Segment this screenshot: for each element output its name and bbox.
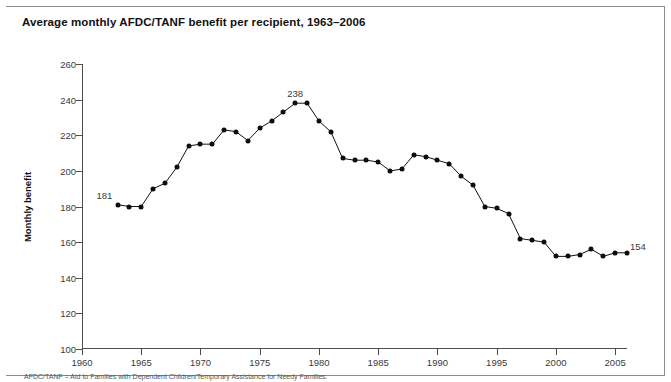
data-point xyxy=(115,202,120,207)
x-tick-label: 1960 xyxy=(62,357,102,368)
data-point xyxy=(423,154,428,159)
data-point xyxy=(482,204,487,209)
y-tick-label: 160 xyxy=(46,237,76,248)
y-tick xyxy=(76,171,82,172)
data-point xyxy=(234,129,239,134)
y-tick-label: 200 xyxy=(46,165,76,176)
x-tick-label: 1990 xyxy=(417,357,457,368)
data-point xyxy=(553,254,558,259)
data-point xyxy=(127,204,132,209)
data-point xyxy=(470,183,475,188)
figure-title: Average monthly AFDC/TANF benefit per re… xyxy=(22,16,365,28)
figure-panel: Average monthly AFDC/TANF benefit per re… xyxy=(0,0,671,382)
x-tick-label: 1995 xyxy=(477,357,517,368)
y-tick-label: 240 xyxy=(46,94,76,105)
data-point xyxy=(589,247,594,252)
y-tick xyxy=(76,207,82,208)
data-point xyxy=(186,143,191,148)
data-point xyxy=(210,142,215,147)
data-point xyxy=(198,142,203,147)
data-point xyxy=(352,158,357,163)
data-point xyxy=(305,101,310,106)
data-point xyxy=(245,138,250,143)
y-tick xyxy=(76,313,82,314)
data-point xyxy=(530,238,535,243)
y-tick-label: 120 xyxy=(46,308,76,319)
data-point xyxy=(447,161,452,166)
data-point xyxy=(340,156,345,161)
y-tick xyxy=(76,278,82,279)
figure-footnote: AFDC/TANF = Aid to Families with Depende… xyxy=(24,373,328,382)
data-point xyxy=(281,110,286,115)
data-point xyxy=(162,181,167,186)
data-point xyxy=(257,126,262,131)
data-point xyxy=(613,250,618,255)
data-point xyxy=(506,211,511,216)
data-point xyxy=(435,158,440,163)
data-point xyxy=(222,127,227,132)
x-tick-label: 1975 xyxy=(240,357,280,368)
data-label: 238 xyxy=(287,88,303,99)
data-point xyxy=(542,240,547,245)
data-point xyxy=(174,165,179,170)
y-tick-label: 260 xyxy=(46,59,76,70)
plot-area: 181238154 xyxy=(82,64,627,349)
data-point xyxy=(601,254,606,259)
data-point xyxy=(625,250,630,255)
x-tick-label: 1985 xyxy=(358,357,398,368)
y-axis-title: Monthly benefit xyxy=(22,171,33,241)
data-label: 181 xyxy=(97,190,113,201)
x-tick-label: 2000 xyxy=(536,357,576,368)
data-point xyxy=(565,254,570,259)
data-point xyxy=(293,101,298,106)
data-point xyxy=(139,204,144,209)
y-tick xyxy=(76,135,82,136)
x-tick-label-layer: 1960196519701975198019851990199520002005 xyxy=(82,348,627,372)
y-tick xyxy=(76,242,82,243)
data-point xyxy=(388,168,393,173)
x-tick-label: 1965 xyxy=(121,357,161,368)
data-point xyxy=(494,206,499,211)
data-point xyxy=(518,236,523,241)
data-point xyxy=(411,152,416,157)
data-point xyxy=(328,129,333,134)
data-point xyxy=(364,158,369,163)
data-point xyxy=(151,186,156,191)
y-tick-label-layer: 100120140160180200220240260 xyxy=(44,64,76,349)
y-tick-label: 140 xyxy=(46,272,76,283)
y-tick-label: 220 xyxy=(46,130,76,141)
data-point xyxy=(269,119,274,124)
y-tick xyxy=(76,64,82,65)
x-tick-label: 1970 xyxy=(180,357,220,368)
benefit-line-series xyxy=(82,64,627,349)
data-point xyxy=(577,252,582,257)
data-label: 154 xyxy=(630,241,646,252)
data-point xyxy=(459,174,464,179)
x-tick-label: 2005 xyxy=(595,357,635,368)
data-point xyxy=(399,167,404,172)
data-point xyxy=(316,119,321,124)
y-tick-label: 180 xyxy=(46,201,76,212)
x-tick-label: 1980 xyxy=(299,357,339,368)
y-tick xyxy=(76,100,82,101)
data-point xyxy=(376,159,381,164)
y-tick-label: 100 xyxy=(46,344,76,355)
